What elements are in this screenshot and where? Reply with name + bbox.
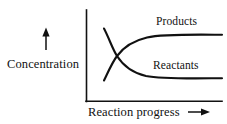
x-axis-label: Reaction progress (88, 106, 180, 119)
reactants-curve-label: Reactants (153, 60, 199, 72)
right-arrow-icon (188, 108, 210, 115)
reaction-progress-diagram: Concentration Reaction progress Products… (0, 0, 227, 124)
y-axis-label: Concentration (7, 58, 79, 71)
products-curve (104, 35, 222, 81)
products-curve-label: Products (156, 16, 197, 28)
up-arrow-icon (42, 28, 49, 51)
